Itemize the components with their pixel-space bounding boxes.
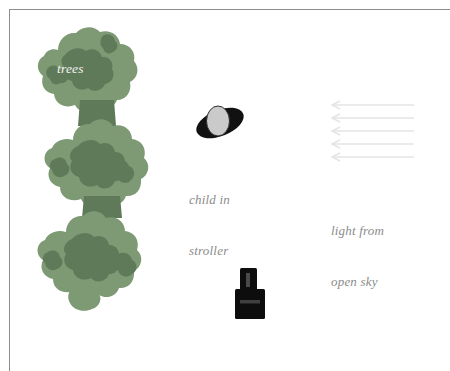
child-in-stroller-figure	[193, 99, 247, 147]
light-ray-arrows	[328, 100, 418, 170]
label-light-line-1: light from	[331, 222, 384, 239]
tree-blob-top	[38, 27, 138, 126]
frame-top-border	[9, 9, 450, 10]
camera-viewfinder-stripe	[246, 273, 250, 287]
light-ray-arrow-5	[332, 153, 414, 161]
tree-blob-middle	[45, 119, 149, 218]
camera-figure	[233, 267, 269, 321]
light-ray-arrow-4	[332, 140, 414, 148]
light-ray-arrow-3	[332, 127, 414, 135]
child-head	[207, 106, 230, 136]
light-ray-arrow-2	[332, 114, 414, 122]
camera-base-body	[235, 289, 265, 319]
camera-lens-stripe	[240, 300, 260, 304]
label-light-line-2: open sky	[331, 273, 384, 290]
tree-blob-bottom	[38, 211, 142, 310]
trees-illustration	[18, 22, 158, 322]
frame-left-border	[9, 9, 10, 371]
light-ray-arrow-1	[332, 101, 414, 109]
label-child-in-stroller: child in stroller	[189, 157, 230, 293]
lighting-diagram-canvas: trees child in stroller	[0, 0, 450, 371]
label-light-from-open-sky: light from open sky	[331, 188, 384, 324]
label-child-line-1: child in	[189, 191, 230, 208]
label-child-line-2: stroller	[189, 242, 230, 259]
label-trees: trees	[57, 60, 84, 77]
